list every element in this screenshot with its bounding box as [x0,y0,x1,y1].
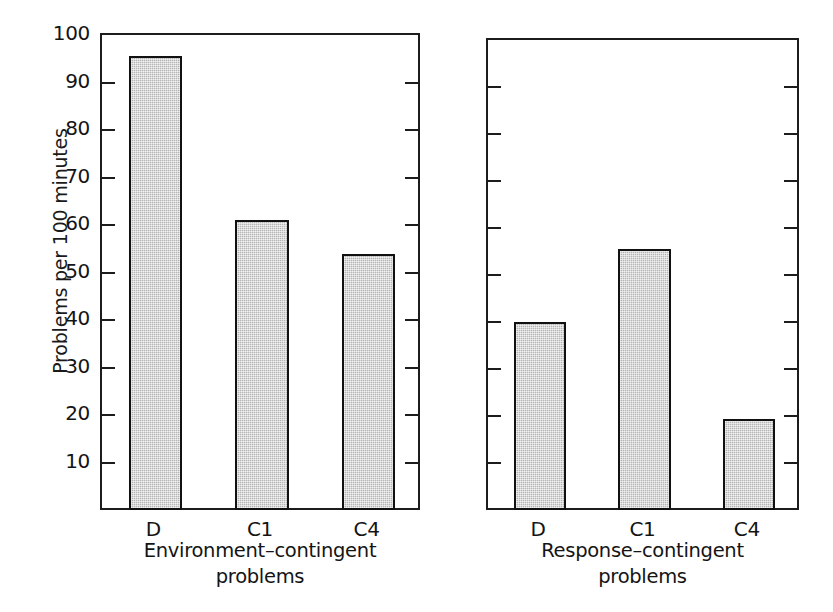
y-axis-tick-label-50: 50 [44,259,90,283]
plot-panel-response-contingent [486,38,799,510]
y-axis-tick-label-100: 100 [44,21,90,45]
y-axis-tick-30 [102,367,115,369]
y-axis-tick-90 [784,86,797,88]
y-axis-tick-60 [488,227,501,229]
y-axis-tick-60 [405,224,418,226]
panel-caption-response-contingent: Response–contingent problems [486,538,799,590]
y-axis-tick-40 [784,321,797,323]
caption-line-2: problems [100,564,420,590]
y-axis-tick-60 [102,224,115,226]
bar-response-contingent-D [514,322,566,510]
y-axis-tick-label-80: 80 [44,116,90,140]
bar-environment-contingent-D [129,56,182,510]
y-axis-tick-20 [784,415,797,417]
plot-panel-environment-contingent [100,33,420,510]
y-axis-tick-label-20: 20 [44,401,90,425]
y-axis-tick-80 [784,133,797,135]
y-axis-tick-50 [784,274,797,276]
y-axis-tick-30 [405,367,418,369]
y-axis-tick-label-30: 30 [44,354,90,378]
y-axis-tick-30 [488,368,501,370]
bar-response-contingent-C1 [618,249,670,510]
y-axis-tick-10 [405,462,418,464]
y-axis-tick-70 [102,177,115,179]
bar-environment-contingent-C4 [342,254,395,511]
y-axis-tick-50 [102,272,115,274]
y-axis-tick-10 [488,462,501,464]
y-axis-tick-80 [405,129,418,131]
y-axis-tick-90 [405,82,418,84]
y-axis-tick-60 [784,227,797,229]
y-axis-tick-20 [405,414,418,416]
y-axis-tick-70 [784,180,797,182]
bar-environment-contingent-C1 [235,220,288,510]
y-axis-tick-20 [488,415,501,417]
caption-line-1: Environment–contingent [100,538,420,564]
bar-response-contingent-C4 [723,419,775,510]
caption-line-1: Response–contingent [486,538,799,564]
y-axis-tick-40 [405,319,418,321]
y-axis-tick-20 [102,414,115,416]
panel-caption-environment-contingent: Environment–contingent problems [100,538,420,590]
y-axis-tick-label-90: 90 [44,69,90,93]
caption-line-2: problems [486,564,799,590]
y-axis-tick-50 [405,272,418,274]
y-axis-tick-50 [488,274,501,276]
y-axis-tick-80 [488,133,501,135]
y-axis-tick-label-60: 60 [44,211,90,235]
figure-bar-chart-pair: Problems per 100 minutes 100908070605040… [0,0,833,612]
y-axis-tick-70 [488,180,501,182]
y-axis-tick-30 [784,368,797,370]
y-axis-tick-90 [102,82,115,84]
y-axis-tick-40 [488,321,501,323]
y-axis-tick-label-40: 40 [44,306,90,330]
y-axis-tick-40 [102,319,115,321]
y-axis-tick-90 [488,86,501,88]
y-axis-tick-label-10: 10 [44,449,90,473]
y-axis-tick-70 [405,177,418,179]
y-axis-tick-10 [102,462,115,464]
y-axis-tick-label-70: 70 [44,164,90,188]
y-axis-tick-80 [102,129,115,131]
y-axis-tick-10 [784,462,797,464]
